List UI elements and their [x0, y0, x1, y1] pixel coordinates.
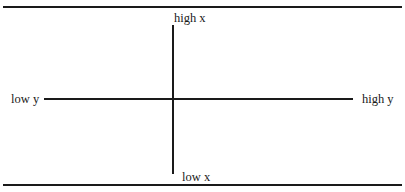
low-y-label: low y — [11, 92, 39, 106]
y-axis-line — [44, 98, 353, 100]
bottom-rule — [3, 184, 402, 186]
top-rule — [3, 6, 402, 8]
x-axis-line — [172, 25, 174, 174]
low-x-label: low x — [182, 170, 210, 184]
high-y-label: high y — [362, 92, 394, 106]
high-x-label: high x — [174, 11, 206, 25]
